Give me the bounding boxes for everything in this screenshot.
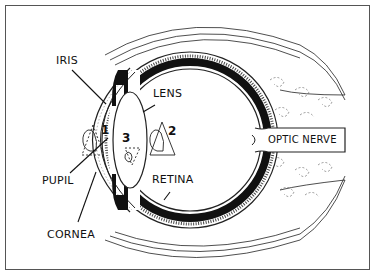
label-cornea: CORNEA	[47, 228, 95, 241]
number-1: 1	[101, 123, 109, 137]
label-optic-nerve: OPTIC NERVE	[268, 134, 337, 145]
number-3: 3	[122, 131, 130, 145]
label-iris: IRIS	[56, 54, 78, 67]
label-pupil: PUPIL	[42, 174, 74, 187]
number-2: 2	[168, 124, 176, 138]
label-retina: RETINA	[152, 173, 194, 186]
label-lens: LENS	[153, 87, 182, 100]
